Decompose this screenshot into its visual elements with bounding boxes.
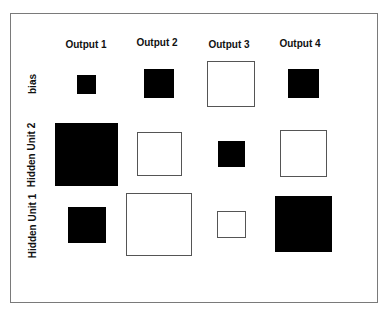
weight-square-hidden-unit-1-output-2 (126, 193, 192, 256)
weight-square-hidden-unit-1-output-3 (217, 211, 246, 238)
weight-square-hidden-unit-2-output-1 (55, 123, 118, 186)
weight-square-bias-output-2 (144, 69, 174, 98)
weight-square-bias-output-3 (207, 61, 255, 107)
weight-square-hidden-unit-2-output-4 (280, 130, 327, 177)
weight-square-hidden-unit-2-output-2 (137, 132, 182, 176)
row-label-bias: bias (27, 74, 38, 94)
column-label-output-3: Output 3 (208, 39, 249, 50)
weight-square-hidden-unit-2-output-3 (218, 141, 245, 167)
weight-square-hidden-unit-1-output-4 (275, 196, 332, 252)
weight-square-bias-output-1 (77, 75, 96, 94)
column-label-output-2: Output 2 (136, 37, 177, 48)
row-label-hidden-unit-1: Hidden Unit 1 (27, 194, 38, 258)
row-label-hidden-unit-2: Hidden Unit 2 (26, 123, 37, 187)
weight-square-bias-output-4 (288, 69, 319, 98)
weight-square-hidden-unit-1-output-1 (68, 207, 106, 243)
column-label-output-1: Output 1 (65, 39, 106, 50)
column-label-output-4: Output 4 (279, 38, 320, 49)
